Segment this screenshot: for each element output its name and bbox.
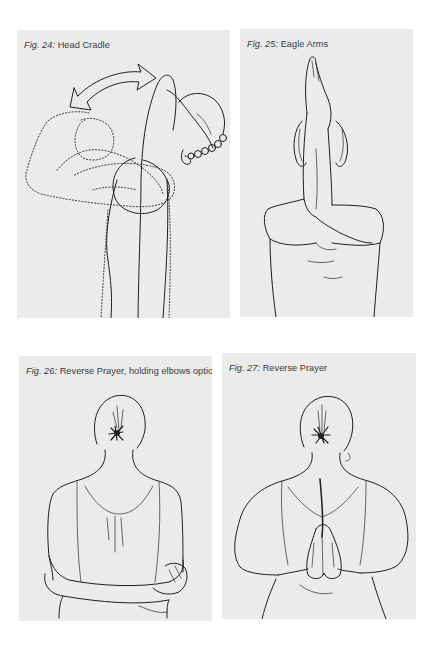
- figure-27-panel: Fig. 27: Reverse Prayer: [222, 353, 416, 619]
- double-arrow-icon: [70, 64, 156, 110]
- head-cradle-illustration: [17, 30, 230, 318]
- figure-24-panel: Fig. 24: Head Cradle: [17, 30, 230, 318]
- figure-25-panel: Fig. 25: Eagle Arms: [240, 29, 413, 317]
- figure-26-panel: Fig. 26: Reverse Prayer, holding elbows …: [19, 356, 212, 621]
- eagle-arms-illustration: [240, 29, 413, 317]
- reverse-prayer-elbows-illustration: [19, 356, 212, 621]
- reverse-prayer-illustration: [222, 353, 416, 619]
